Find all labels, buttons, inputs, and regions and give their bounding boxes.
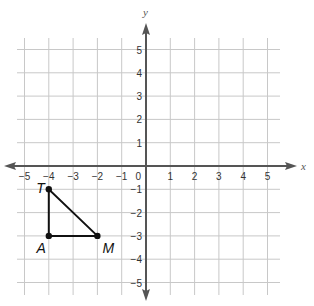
y-tick-label: −4 [131,254,143,265]
triangle-tam: TAM [35,180,114,256]
y-tick-label: −5 [131,278,143,289]
x-tick-label: 4 [240,171,246,182]
y-tick-label: 5 [136,45,142,56]
x-tick-label: 5 [265,171,271,182]
x-tick-label: −4 [43,171,55,182]
y-tick-label: 2 [136,114,142,125]
x-tick-label: −5 [19,171,31,182]
vertex-point-m [94,233,100,239]
origin-label: 0 [135,171,141,182]
y-tick-label: 4 [136,68,142,79]
vertex-label-a: A [35,240,45,256]
x-axis-label: x [300,160,306,172]
y-tick-label: 3 [136,91,142,102]
vertex-point-a [46,233,52,239]
x-tick-label: 1 [168,171,174,182]
y-tick-label: −3 [131,231,143,242]
x-tick-label: −2 [92,171,104,182]
vertex-label-t: T [36,180,46,196]
y-tick-label: 1 [136,138,142,149]
x-tick-label: 3 [216,171,222,182]
x-tick-label: −1 [116,171,128,182]
vertex-label-m: M [102,240,114,256]
x-tick-label: 2 [192,171,198,182]
x-tick-label: −3 [67,171,79,182]
y-axis-label: y [142,6,148,18]
y-tick-label: −1 [131,184,143,195]
coordinate-plane: −5−4−3−2−11234554321−1−2−3−4−5 TAM x y 0 [0,0,314,306]
vertex-point-t [46,186,52,192]
y-tick-label: −2 [131,208,143,219]
